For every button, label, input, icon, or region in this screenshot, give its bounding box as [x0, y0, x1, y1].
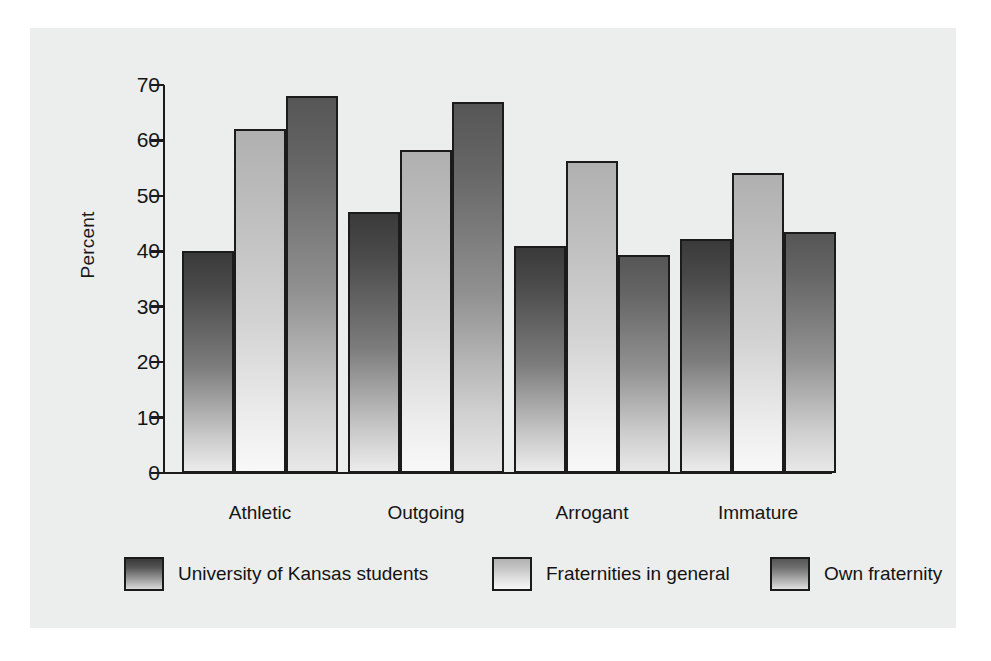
bar	[618, 255, 670, 473]
legend-label: Own fraternity	[824, 563, 942, 585]
bar	[234, 129, 286, 473]
bar	[348, 212, 400, 473]
legend-swatch	[124, 557, 164, 591]
bar	[182, 251, 234, 473]
bar	[286, 96, 338, 473]
plot-area: Percent 010203040506070 AthleticOutgoing…	[30, 28, 956, 628]
legend-entry: University of Kansas students	[124, 551, 428, 597]
x-axis-category-label: Outgoing	[336, 502, 516, 524]
bar	[400, 150, 452, 473]
legend-entry: Fraternities in general	[492, 551, 730, 597]
legend-label: University of Kansas students	[178, 563, 428, 585]
bar	[732, 173, 784, 473]
legend-entry: Own fraternity	[770, 551, 942, 597]
legend-label: Fraternities in general	[546, 563, 730, 585]
bar	[680, 239, 732, 473]
x-axis-category-label: Immature	[668, 502, 848, 524]
legend-swatch	[492, 557, 532, 591]
x-axis-category-label: Athletic	[170, 502, 350, 524]
bar	[784, 232, 836, 473]
bar	[452, 102, 504, 473]
figure-panel: Percent 010203040506070 AthleticOutgoing…	[30, 28, 956, 628]
chart-legend: University of Kansas studentsFraternitie…	[92, 551, 912, 597]
bar	[566, 161, 618, 473]
x-axis-category-label: Arrogant	[502, 502, 682, 524]
legend-swatch	[770, 557, 810, 591]
bar	[514, 246, 566, 473]
